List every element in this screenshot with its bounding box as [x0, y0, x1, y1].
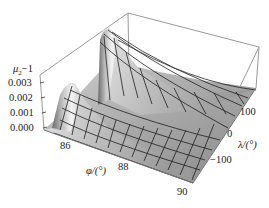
x-tick-86: 86: [60, 141, 71, 152]
z-tick-0002: 0.002: [9, 93, 33, 104]
y-axis-label: λ/(°): [238, 140, 257, 151]
z-tick-0003: 0.003: [8, 78, 32, 89]
x-tick-90: 90: [177, 187, 188, 198]
z-axis-label-suffix: −1: [22, 63, 33, 74]
z-tick-0001: 0.001: [10, 108, 34, 119]
surface-plot: [0, 0, 269, 208]
z-tick-0000: 0.000: [10, 123, 34, 134]
z-axis-label: μ2−1: [13, 64, 33, 77]
y-tick-100: 100: [240, 107, 256, 118]
y-tick-0: 0: [227, 129, 232, 140]
x-axis-label: φ/(°): [86, 166, 106, 177]
x-tick-88: 88: [118, 162, 129, 173]
y-tick-minus100: −100: [210, 155, 232, 166]
